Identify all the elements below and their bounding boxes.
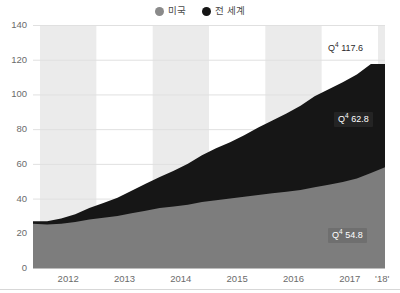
- plot-area: [0, 0, 400, 293]
- area-chart: 미국 전 세계 020406080100120140 2012201320142…: [0, 0, 400, 293]
- chart-canvas: [0, 0, 400, 293]
- bottom-divider: [0, 289, 400, 290]
